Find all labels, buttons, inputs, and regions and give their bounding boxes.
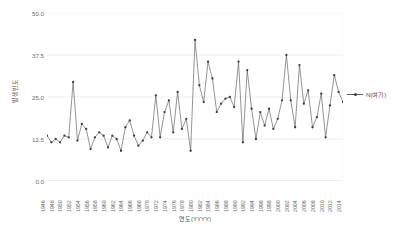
x-axis-tick-label: 1976 <box>171 200 177 212</box>
x-axis-tick-label: 1946 <box>40 200 46 212</box>
y-axis-tick-label: 0.0 <box>35 178 44 185</box>
x-axis-tick-label: 1972 <box>153 200 159 212</box>
y-axis-tick-label: 25.0 <box>32 94 44 101</box>
x-axis-tick-label: 1996 <box>258 200 264 212</box>
x-axis-tick-label: 1952 <box>66 200 72 212</box>
x-axis-tick-label: 1988 <box>223 200 229 212</box>
x-axis-tick-label: 2002 <box>284 200 290 212</box>
x-axis-tick-label: 1978 <box>179 200 185 212</box>
x-axis-tick-label: 1956 <box>84 200 90 212</box>
x-axis-tick-label: 1980 <box>188 200 194 212</box>
x-axis-tick-label: 1950 <box>57 200 63 212</box>
x-axis-tick-label: 1970 <box>144 200 150 212</box>
x-axis-tick-label: 1968 <box>136 200 142 212</box>
x-axis-tick-label: 1998 <box>266 200 272 212</box>
x-axis-tick-label: 1982 <box>197 200 203 212</box>
x-axis-tick-label: 1992 <box>240 200 246 212</box>
x-axis-tick-label: 1960 <box>101 200 107 212</box>
legend: N(여기) <box>347 90 386 99</box>
x-axis-tick-row: 1946194819501952195419561958196019621964… <box>47 182 343 212</box>
legend-marker-icon <box>347 92 363 98</box>
y-axis-tick-label: 12.5 <box>32 136 44 143</box>
x-axis-tick-label: 1964 <box>118 200 124 212</box>
y-axis-tick-label: 50.0 <box>32 10 44 17</box>
legend-label: N(여기) <box>366 90 386 99</box>
series-svg <box>47 13 343 181</box>
y-axis-title: 발생빈도 <box>10 61 19 121</box>
x-axis-tick-label: 1990 <box>232 200 238 212</box>
plot-area <box>47 13 343 181</box>
x-axis-tick-label: 2010 <box>319 200 325 212</box>
chart-root: 0.012.525.037.550.0 발생빈도 194619481950195… <box>0 0 393 234</box>
x-axis-title: 연도(YYYY) <box>47 214 343 223</box>
x-axis-tick-label: 1966 <box>127 200 133 212</box>
x-axis-tick-label: 1962 <box>110 200 116 212</box>
x-axis-tick-label: 1974 <box>162 200 168 212</box>
y-axis-tick-column: 0.012.525.037.550.0 <box>0 0 44 234</box>
x-axis-tick-label: 1954 <box>75 200 81 212</box>
x-axis-tick-label: 2012 <box>327 200 333 212</box>
x-axis-tick-label: 2004 <box>292 200 298 212</box>
x-axis-tick-label: 1994 <box>249 200 255 212</box>
x-axis-tick-label: 1986 <box>214 200 220 212</box>
x-axis-tick-label: 2008 <box>310 200 316 212</box>
x-axis-tick-label: 1958 <box>92 200 98 212</box>
x-axis-tick-label: 2006 <box>301 200 307 212</box>
x-axis-tick-label: 1984 <box>205 200 211 212</box>
x-axis-tick-label: 2000 <box>275 200 281 212</box>
x-axis-tick-label: 2014 <box>336 200 342 212</box>
y-axis-tick-label: 37.5 <box>32 52 44 59</box>
x-axis-tick-label: 1948 <box>49 200 55 212</box>
